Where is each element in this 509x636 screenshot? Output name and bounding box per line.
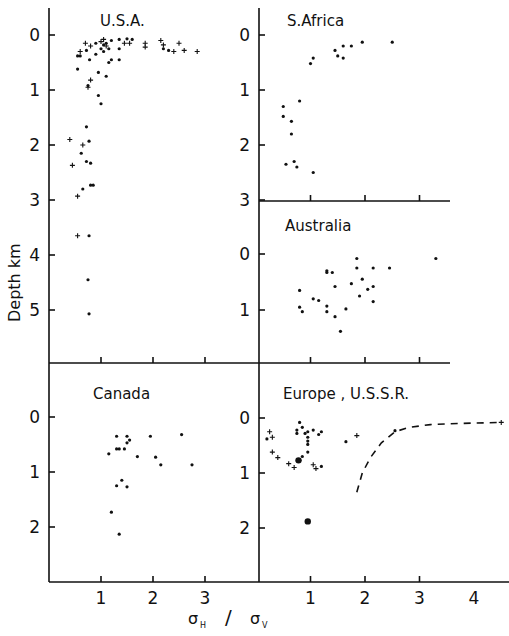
data-point-dot bbox=[333, 49, 336, 52]
data-point-dot bbox=[167, 49, 170, 52]
y-tick-label: 1 bbox=[239, 80, 250, 100]
y-tick-label: 5 bbox=[29, 300, 40, 320]
data-point-cross bbox=[143, 45, 148, 50]
y-tick-label: 0 bbox=[239, 408, 250, 428]
data-point-dot bbox=[118, 447, 121, 450]
data-point-dot bbox=[162, 47, 165, 50]
sigma-v-symbol: σ bbox=[250, 609, 260, 628]
data-point-dot bbox=[336, 54, 339, 57]
data-point-cross bbox=[267, 429, 272, 434]
data-point-dot bbox=[295, 429, 298, 432]
data-point-cross bbox=[171, 49, 176, 54]
data-point-dot bbox=[107, 61, 110, 64]
data-point-large-dot bbox=[295, 457, 301, 463]
data-point-dot bbox=[391, 41, 394, 44]
data-point-dot bbox=[303, 432, 306, 435]
data-point-cross bbox=[158, 38, 163, 43]
data-point-dot bbox=[434, 257, 437, 260]
data-point-dot bbox=[393, 429, 396, 432]
data-point-dot bbox=[388, 266, 391, 269]
x-tick-label: 1 bbox=[96, 588, 107, 608]
slash: / bbox=[225, 605, 232, 629]
data-point-dot bbox=[125, 441, 128, 444]
data-point-dot bbox=[342, 44, 345, 47]
y-tick-label: 0 bbox=[29, 407, 40, 427]
data-point-dot bbox=[115, 435, 118, 438]
data-point-dot bbox=[149, 435, 152, 438]
x-tick-label: 2 bbox=[360, 588, 371, 608]
data-point-cross bbox=[195, 49, 200, 54]
data-point-dot bbox=[344, 440, 347, 443]
data-point-dot bbox=[320, 430, 323, 433]
x-tick-label: 3 bbox=[200, 588, 211, 608]
data-point-dot bbox=[118, 533, 121, 536]
data-point-dot bbox=[125, 37, 128, 40]
data-point-dot bbox=[120, 479, 123, 482]
data-point-dot bbox=[320, 465, 323, 468]
data-point-dot bbox=[295, 165, 298, 168]
axes-frame bbox=[49, 8, 509, 582]
data-point-dot bbox=[350, 282, 353, 285]
panel-title-safrica: S.Africa bbox=[287, 12, 344, 30]
data-point-dot bbox=[309, 62, 312, 65]
sigma-h-symbol: σ bbox=[188, 609, 198, 628]
data-point-dot bbox=[317, 433, 320, 436]
data-point-dot bbox=[344, 307, 347, 310]
data-point-dot bbox=[94, 53, 97, 56]
data-point-dot bbox=[333, 315, 336, 318]
x-tick-label: 2 bbox=[148, 588, 159, 608]
data-point-dot bbox=[99, 47, 102, 50]
data-point-dot bbox=[312, 57, 315, 60]
data-point-dot bbox=[159, 463, 162, 466]
panel-title-usa: U.S.A. bbox=[100, 12, 145, 30]
data-point-dot bbox=[80, 152, 83, 155]
data-point-dot bbox=[76, 68, 79, 71]
data-point-dot bbox=[366, 288, 369, 291]
data-point-dot bbox=[89, 162, 92, 165]
data-point-dot bbox=[136, 455, 139, 458]
data-point-cross bbox=[67, 137, 72, 142]
data-point-dot bbox=[361, 41, 364, 44]
data-point-cross bbox=[70, 163, 75, 168]
ticks: 0123450123010121230121234 bbox=[29, 25, 479, 608]
data-point-dot bbox=[312, 297, 315, 300]
sigma-h-subscript: H bbox=[200, 621, 206, 630]
data-point-dot bbox=[265, 437, 268, 440]
data-point-cross bbox=[127, 41, 132, 46]
data-point-dot bbox=[110, 39, 113, 42]
x-tick-label: 4 bbox=[469, 588, 480, 608]
data-point-dot bbox=[325, 271, 328, 274]
data-point-dot bbox=[92, 184, 95, 187]
data-point-dot bbox=[298, 306, 301, 309]
data-point-dot bbox=[293, 160, 296, 163]
data-point-dot bbox=[282, 115, 285, 118]
y-tick-label: 3 bbox=[239, 190, 250, 210]
data-point-dot bbox=[372, 300, 375, 303]
data-point-dot bbox=[118, 38, 121, 41]
data-point-dot bbox=[295, 432, 298, 435]
data-point-cross bbox=[354, 433, 359, 438]
data-point-cross bbox=[78, 49, 83, 54]
data-point-dot bbox=[97, 94, 100, 97]
y-tick-label: 1 bbox=[29, 462, 40, 482]
data-point-dot bbox=[105, 75, 108, 78]
data-point-dot bbox=[325, 310, 328, 313]
data-point-cross bbox=[270, 450, 275, 455]
data-point-dot bbox=[87, 234, 90, 237]
data-point-dot bbox=[301, 455, 304, 458]
data-point-dot bbox=[85, 160, 88, 163]
data-point-dot bbox=[107, 47, 110, 50]
data-point-dot bbox=[94, 42, 97, 45]
data-point-dot bbox=[125, 435, 128, 438]
data-point-cross bbox=[86, 85, 91, 90]
data-point-cross bbox=[286, 461, 291, 466]
data-point-dot bbox=[325, 304, 328, 307]
data-point-cross bbox=[313, 466, 318, 471]
data-point-dot bbox=[306, 440, 309, 443]
data-point-cross bbox=[88, 78, 93, 83]
data-point-dot bbox=[87, 140, 90, 143]
data-point-dot bbox=[87, 312, 90, 315]
data-point-dot bbox=[298, 289, 301, 292]
data-point-dot bbox=[131, 38, 134, 41]
data-point-dot bbox=[306, 451, 309, 454]
